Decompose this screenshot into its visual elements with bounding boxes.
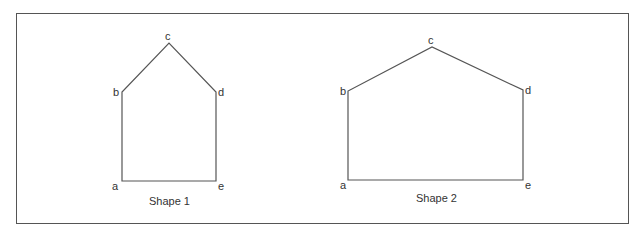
vertex-label-c: c xyxy=(428,34,434,46)
shape-2-outline xyxy=(348,47,523,180)
shape-1-caption: Shape 1 xyxy=(149,195,190,207)
vertex-label-d: d xyxy=(525,84,531,96)
shape-1: a b c d e Shape 1 xyxy=(112,30,224,207)
vertex-label-c: c xyxy=(165,30,171,42)
shape-2-caption: Shape 2 xyxy=(416,192,457,204)
vertex-label-e: e xyxy=(525,179,531,191)
vertex-label-b: b xyxy=(340,85,346,97)
vertex-label-d: d xyxy=(218,86,224,98)
vertex-label-b: b xyxy=(113,86,119,98)
vertex-label-a: a xyxy=(112,180,119,192)
shape-1-outline xyxy=(122,43,216,181)
vertex-label-e: e xyxy=(218,180,224,192)
shape-2: a b c d e Shape 2 xyxy=(340,34,531,204)
vertex-label-a: a xyxy=(340,179,347,191)
diagram-canvas: a b c d e Shape 1 a b c d e Shape 2 xyxy=(0,0,643,240)
